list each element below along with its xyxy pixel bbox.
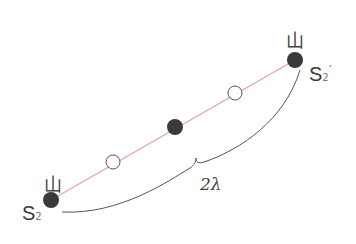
source-label-s2: S2: [22, 202, 42, 225]
crest-symbol-left: 山: [44, 170, 62, 196]
source-label-s2-prime: S2′: [309, 62, 332, 86]
node-open-2: [228, 86, 242, 100]
span-brace: [62, 70, 300, 212]
source-label-subscript: 2: [35, 211, 41, 222]
source-label-prime: ′: [329, 62, 332, 78]
source-label-text: S: [22, 202, 35, 224]
crest-symbol-right: 山: [286, 26, 304, 52]
source-label-text: S: [309, 63, 322, 85]
node-open-1: [106, 155, 120, 169]
node-filled-middle: [167, 119, 183, 135]
source-s2-prime-dot: [287, 52, 303, 68]
span-label: 2λ: [200, 174, 222, 194]
